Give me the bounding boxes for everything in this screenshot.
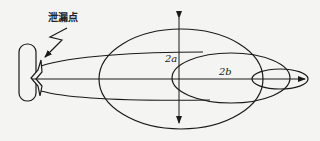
diagram-canvas: 泄漏点 2a 2b [0,0,320,141]
plume-lower-edge [41,91,210,100]
leak-pointer-zigzag [45,28,67,57]
axis-2b-label: 2b [219,67,232,77]
leak-point-label: 泄漏点 [48,13,78,23]
leak-source-tank [19,44,36,101]
medium-cloud-ellipse [172,53,290,103]
axis-2a-label: 2a [165,54,177,64]
